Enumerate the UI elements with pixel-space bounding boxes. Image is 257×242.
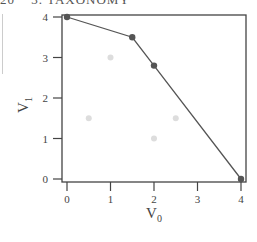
plot-frame xyxy=(62,15,246,182)
x-axis-label: V0 xyxy=(146,205,162,224)
y-tick-label: 4 xyxy=(43,11,49,23)
y-tick-label: 0 xyxy=(43,173,49,185)
y-tick-label: 1 xyxy=(43,133,49,145)
front-point xyxy=(151,62,157,68)
front-point xyxy=(64,14,70,20)
x-tick-label: 2 xyxy=(151,193,157,205)
dominated-point xyxy=(173,115,179,121)
x-tick-label: 4 xyxy=(238,193,244,205)
y-axis-label: V1 xyxy=(15,97,34,113)
x-tick-label: 1 xyxy=(108,193,114,205)
y-tick-label: 3 xyxy=(43,52,49,64)
dominated-point xyxy=(108,55,114,61)
dominated-point xyxy=(86,115,92,121)
dominated-point xyxy=(151,136,157,142)
front-point xyxy=(129,34,135,40)
front-point xyxy=(238,176,244,182)
series-line xyxy=(67,17,241,179)
axes: 0123401234 xyxy=(43,11,247,205)
x-tick-label: 3 xyxy=(195,193,201,205)
x-tick-label: 0 xyxy=(64,193,70,205)
series xyxy=(64,14,244,182)
scatter-chart: 0123401234 V1 V0 xyxy=(0,0,257,242)
y-tick-label: 2 xyxy=(43,92,49,104)
